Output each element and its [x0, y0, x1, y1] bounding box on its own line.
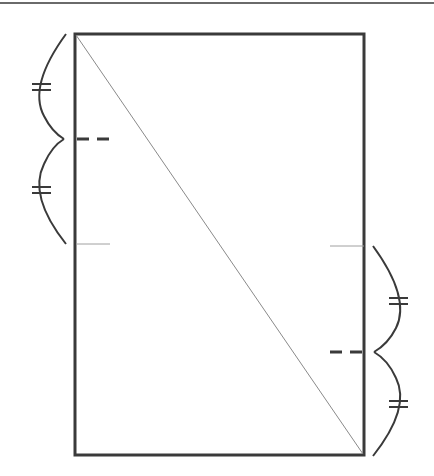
left-brace-lower-arc — [39, 139, 66, 244]
left-lower-equal-tick-icon — [32, 187, 51, 193]
diagonal-line — [76, 35, 363, 454]
right-brace-lower-arc — [373, 352, 400, 456]
left-brace-upper-arc — [39, 34, 66, 139]
right-upper-equal-tick-icon — [389, 298, 408, 304]
right-lower-equal-tick-icon — [389, 401, 408, 407]
left-upper-equal-tick-icon — [32, 84, 51, 90]
geometry-diagram — [0, 0, 434, 476]
